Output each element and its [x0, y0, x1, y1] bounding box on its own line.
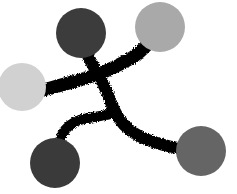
- circle-node-top-right: [135, 2, 185, 52]
- brush-stroke-top-to-bottom-right: [88, 56, 178, 148]
- brush-stroke-bottom-left-to-center: [60, 114, 110, 142]
- diagram-canvas: [0, 0, 237, 194]
- network-diagram: [0, 0, 237, 194]
- circle-node-bottom-left: [30, 138, 80, 188]
- circle-node-left: [0, 63, 46, 111]
- circle-node-top: [56, 8, 106, 58]
- circle-node-bottom-right: [176, 126, 226, 176]
